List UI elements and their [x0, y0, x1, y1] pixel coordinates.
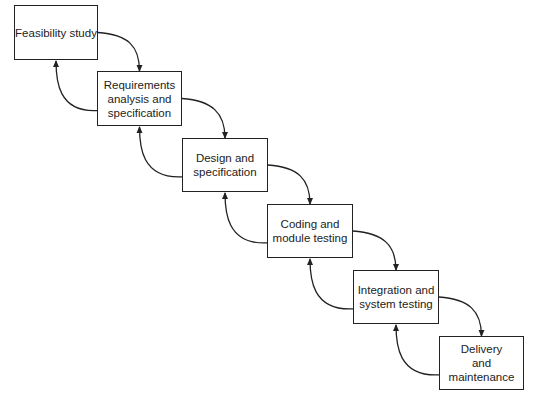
- feedback-arrow: [140, 127, 183, 177]
- forward-arrow: [353, 231, 396, 270]
- phase-feasibility-study: Feasibility study: [14, 5, 98, 60]
- forward-arrow: [182, 99, 225, 139]
- phase-requirements: Requirements analysis and specification: [97, 71, 182, 126]
- feedback-arrow: [56, 61, 97, 111]
- phase-coding: Coding and module testing: [267, 204, 353, 258]
- feedback-arrow: [225, 193, 267, 243]
- forward-arrow: [268, 165, 310, 204]
- waterfall-diagram: Feasibility study Requirements analysis …: [0, 0, 533, 404]
- forward-arrow: [439, 297, 482, 336]
- forward-arrow: [98, 33, 140, 72]
- feedback-arrow: [396, 325, 439, 375]
- phase-integration: Integration and system testing: [353, 270, 439, 324]
- phase-delivery: Delivery and maintenance: [439, 336, 524, 390]
- phase-design: Design and specification: [182, 138, 268, 192]
- feedback-arrow: [310, 259, 353, 309]
